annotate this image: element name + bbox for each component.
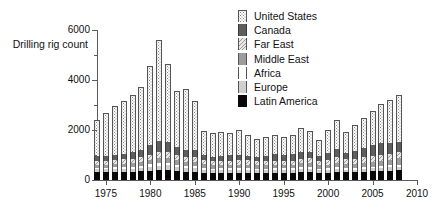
- bar-segment: [94, 172, 100, 180]
- bar-segment: [298, 152, 304, 159]
- bar-1976: [112, 106, 118, 180]
- bar-segment: [387, 171, 393, 180]
- legend-item-europe: Europe: [238, 80, 318, 94]
- bar-segment: [245, 173, 251, 181]
- bar-1993: [263, 137, 269, 180]
- bar-segment: [138, 171, 144, 180]
- legend-swatch-icon: [238, 67, 247, 79]
- bar-segment: [174, 147, 180, 155]
- x-axis-line: [97, 180, 417, 181]
- bar-1980: [147, 66, 153, 180]
- bar-1984: [183, 89, 189, 180]
- legend-item-far-east: Far East: [238, 37, 318, 51]
- x-tick: [239, 180, 240, 185]
- bar-segment: [156, 40, 162, 141]
- bar-1994: [272, 135, 278, 180]
- bar-1990: [236, 130, 242, 180]
- y-tick-minor: [94, 55, 97, 56]
- bar-segment: [94, 120, 100, 156]
- bar-segment: [147, 66, 153, 145]
- x-tick: [328, 180, 329, 185]
- bar-segment: [343, 132, 349, 153]
- bar-segment: [227, 133, 233, 155]
- bar-segment: [236, 173, 242, 181]
- bar-1982: [165, 64, 171, 180]
- legend-item-africa: Africa: [238, 66, 318, 80]
- y-tick-minor: [94, 105, 97, 106]
- legend-item-united-states: United States: [238, 9, 318, 23]
- bar-segment: [165, 170, 171, 180]
- x-tick: [106, 180, 107, 185]
- bar-segment: [218, 132, 224, 155]
- bar-2001: [334, 120, 340, 180]
- bar-segment: [210, 133, 216, 157]
- bar-segment: [103, 172, 109, 180]
- legend-swatch-icon: [238, 81, 247, 93]
- bar-segment: [263, 137, 269, 156]
- legend-swatch-icon: [238, 24, 247, 36]
- bar-1998: [307, 131, 313, 180]
- bar-segment: [254, 139, 260, 157]
- bar-segment: [165, 142, 171, 152]
- bar-segment: [298, 172, 304, 180]
- bar-1989: [227, 133, 233, 180]
- bar-1983: [174, 91, 180, 180]
- bar-segment: [254, 173, 260, 180]
- legend-item-middle-east: Middle East: [238, 52, 318, 66]
- bar-1991: [245, 135, 251, 181]
- x-tick: [417, 180, 418, 185]
- bar-segment: [307, 131, 313, 152]
- bar-1978: [130, 95, 136, 180]
- bar-segment: [112, 106, 118, 155]
- bar-segment: [130, 172, 136, 180]
- x-tick-label: 2010: [406, 188, 428, 199]
- bar-1974: [94, 120, 100, 180]
- bar-2003: [352, 125, 358, 180]
- bar-1999: [316, 140, 322, 180]
- y-tick-minor: [94, 155, 97, 156]
- bar-segment: [343, 172, 349, 180]
- bar-segment: [396, 95, 402, 142]
- bar-segment: [245, 135, 251, 157]
- bar-segment: [361, 172, 367, 180]
- bar-segment: [201, 131, 207, 155]
- x-tick: [195, 180, 196, 185]
- bar-segment: [325, 130, 331, 153]
- bar-1986: [201, 131, 207, 180]
- bar-segment: [281, 173, 287, 181]
- legend-item-latin-america: Latin America: [238, 94, 318, 108]
- y-tick-major: [92, 80, 97, 81]
- bar-segment: [387, 100, 393, 143]
- legend-label: United States: [254, 10, 317, 22]
- bar-2002: [343, 132, 349, 180]
- bar-segment: [290, 135, 296, 155]
- legend-item-canada: Canada: [238, 23, 318, 37]
- bar-1996: [290, 135, 296, 180]
- x-tick-label: 2005: [361, 188, 383, 199]
- legend-label: Europe: [254, 81, 288, 93]
- bar-segment: [103, 113, 109, 156]
- legend-label: Latin America: [254, 95, 318, 107]
- drilling-rig-count-chart: Drilling rig count 197519801985199019952…: [0, 0, 442, 216]
- bar-segment: [370, 171, 376, 180]
- bar-segment: [192, 150, 198, 157]
- y-tick-major: [92, 30, 97, 31]
- y-tick-label: 2000: [56, 124, 90, 135]
- bar-1992: [254, 139, 260, 181]
- bar-2004: [361, 118, 367, 180]
- bar-segment: [325, 153, 331, 160]
- bar-segment: [272, 173, 278, 181]
- bar-segment: [174, 171, 180, 180]
- x-tick-label: 1980: [139, 188, 161, 199]
- bar-2006: [378, 104, 384, 180]
- bar-segment: [307, 172, 313, 180]
- bar-segment: [121, 101, 127, 154]
- bar-segment: [387, 143, 393, 154]
- x-tick-label: 1990: [228, 188, 250, 199]
- bar-1987: [210, 133, 216, 180]
- bar-segment: [352, 172, 358, 180]
- bar-segment: [227, 173, 233, 180]
- bar-segment: [316, 173, 322, 180]
- y-axis-title: Drilling rig count: [4, 38, 88, 51]
- x-tick: [373, 180, 374, 185]
